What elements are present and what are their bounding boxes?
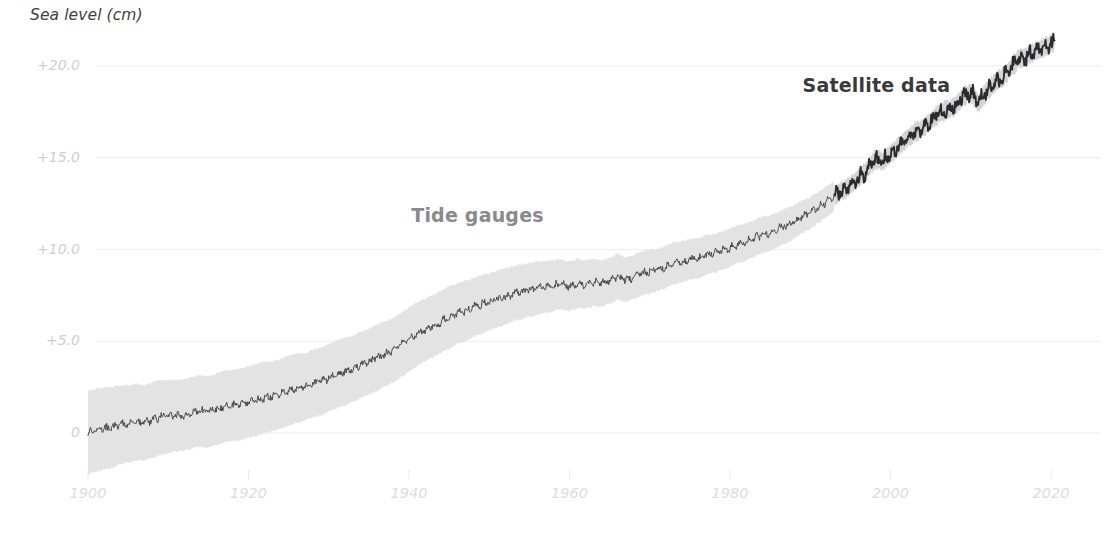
x-tick-label: 1940	[369, 485, 449, 501]
x-tick-label: 1960	[530, 485, 610, 501]
x-tick-label: 2020	[1011, 485, 1091, 501]
sea-level-chart: Sea level (cm) +20.0+15.0+10.0+5.00 1900…	[0, 0, 1109, 537]
x-tick-marks	[88, 470, 1051, 479]
x-tick-label: 1920	[209, 485, 289, 501]
y-tick-label: +15.0	[0, 149, 88, 165]
annotation-tide-gauges: Tide gauges	[411, 204, 544, 226]
annotation-satellite-data: Satellite data	[803, 74, 951, 96]
y-tick-label: 0	[0, 424, 88, 440]
x-tick-label: 2000	[851, 485, 931, 501]
y-tick-label: +10.0	[0, 241, 88, 257]
x-tick-label: 1980	[690, 485, 770, 501]
x-tick-label: 1900	[48, 485, 128, 501]
uncertainty-bands	[88, 31, 1055, 476]
y-tick-label: +5.0	[0, 332, 88, 348]
y-tick-label: +20.0	[0, 57, 88, 73]
